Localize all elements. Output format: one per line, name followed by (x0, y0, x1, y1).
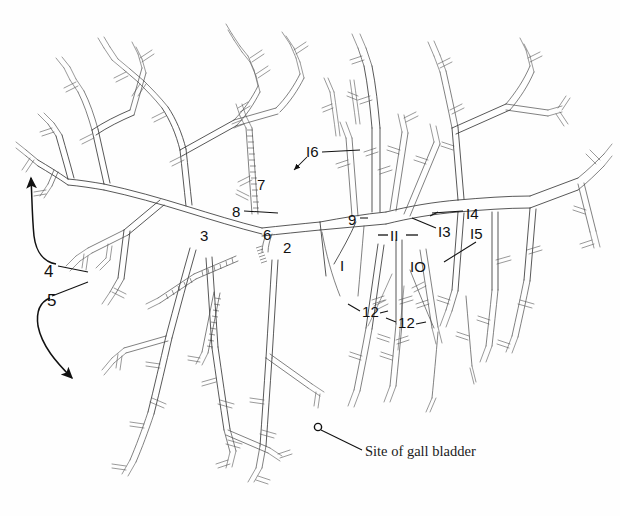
label-11: II (390, 228, 399, 243)
duct-tree-illustration: .duct { fill:none; stroke:#3a3a3a; strok… (0, 0, 620, 516)
label-14: I4 (466, 206, 479, 221)
label-5: 5 (47, 292, 57, 309)
leader-4 (58, 266, 88, 272)
duct-tree-hilum (256, 212, 386, 296)
label-2: 2 (283, 240, 292, 255)
leader-12b (386, 318, 396, 322)
label-12-b: 12 (398, 315, 415, 330)
label-7: 7 (257, 177, 266, 192)
label-3: 3 (200, 228, 209, 243)
label-12-a: 12 (362, 304, 379, 319)
duct-tree-right-lobe (322, 34, 612, 412)
label-10: IO (410, 259, 426, 274)
label-9: 9 (348, 212, 357, 227)
biliary-duct-figure: .duct { fill:none; stroke:#3a3a3a; strok… (0, 0, 620, 516)
gall-bladder-marker (314, 423, 321, 430)
leader-12a-right (380, 311, 388, 313)
label-4: 4 (44, 263, 54, 280)
leader-12b-right (416, 322, 426, 324)
leader-13 (412, 218, 436, 228)
label-1: I (340, 258, 344, 273)
label-6: 6 (263, 227, 272, 242)
label-13: I3 (438, 224, 451, 239)
leader-16 (322, 150, 360, 152)
label-8: 8 (232, 204, 241, 219)
leader-12a (348, 304, 360, 311)
gall-bladder-caption: Site of gall bladder (365, 444, 476, 459)
leader-gall-bladder (321, 430, 362, 450)
leader-8 (244, 211, 278, 213)
arrow-5 (38, 298, 73, 378)
label-15: I5 (470, 226, 483, 241)
leader-15 (444, 242, 476, 262)
label-leader-lines (31, 150, 476, 450)
leader-5 (52, 282, 88, 296)
duct-tree-left-lobe (16, 24, 324, 484)
label-16: I6 (306, 144, 319, 159)
